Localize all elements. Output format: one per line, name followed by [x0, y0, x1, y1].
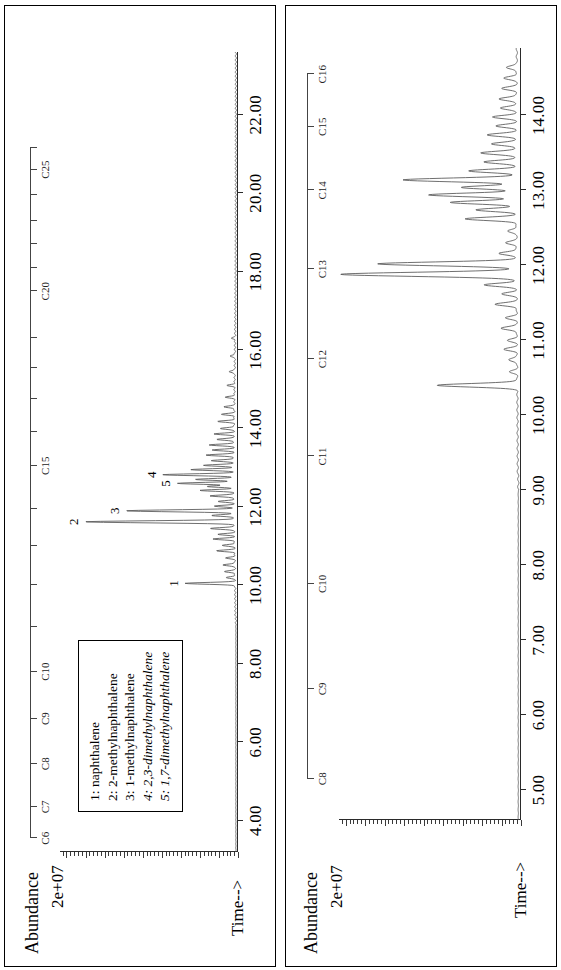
y-axis-tick [350, 820, 351, 824]
y-axis-tick [200, 852, 201, 858]
y-axis-tick [89, 852, 90, 856]
y-axis-tick [169, 852, 170, 856]
x-axis-tick [521, 114, 526, 115]
figure-root: 4.006.008.0010.0012.0014.0016.0018.0020.… [0, 0, 561, 970]
carbon-ruler-tick [30, 194, 37, 195]
y-axis-tick [342, 820, 343, 824]
x-axis-tick-label: 7.00 [529, 625, 549, 656]
carbon-ruler-label: C12 [316, 350, 328, 368]
y-axis-tick [381, 820, 382, 824]
panel-top: 4.006.008.0010.0012.0014.0016.0018.0020.… [0, 0, 280, 970]
y-axis-tick [227, 852, 228, 856]
y-axis-tick [357, 820, 358, 824]
x-axis-tick [238, 271, 243, 272]
peak-label: 1 [166, 580, 182, 587]
x-axis-tick [521, 489, 526, 490]
carbon-ruler-tick [30, 718, 37, 719]
x-axis-tick [238, 820, 243, 821]
carbon-ruler-tick [30, 584, 37, 585]
y-axis-tick [361, 820, 362, 824]
y-axis-tick [416, 820, 417, 824]
carbon-ruler-label: C13 [316, 260, 328, 278]
carbon-ruler-label: C9 [39, 712, 51, 725]
y-axis-tick [219, 852, 220, 858]
carbon-ruler-tick [307, 778, 314, 779]
panel-top-y-scale-label: 2e+07 [48, 865, 68, 908]
x-axis-tick [238, 114, 243, 115]
y-axis-tick [78, 852, 79, 856]
x-axis-tick-label: 11.00 [529, 321, 549, 360]
y-axis-tick [82, 852, 83, 856]
y-axis-tick [396, 820, 397, 824]
legend-entry-label: 2-methylnaphthalene [105, 673, 120, 790]
y-axis-tick [400, 820, 401, 824]
x-axis-tick [521, 639, 526, 640]
legend-entry: 1: naphthalene [86, 652, 104, 801]
legend-entry-index: 5: [157, 790, 172, 801]
x-axis-tick-label: 6.00 [529, 700, 549, 731]
x-axis-tick-label: 8.00 [529, 550, 549, 581]
y-axis-tick [365, 820, 366, 826]
y-axis-tick [188, 852, 189, 856]
y-axis-tick [517, 820, 518, 824]
carbon-ruler-tick [307, 126, 314, 127]
carbon-ruler-label: C25 [39, 160, 51, 178]
y-axis-tick [124, 852, 125, 858]
legend-entry-label: 1,7-dimethylnaphthalene [157, 652, 172, 790]
y-axis-tick [470, 820, 471, 824]
carbon-ruler-tick [30, 626, 37, 627]
y-axis-tick [346, 820, 347, 826]
carbon-ruler-tick [307, 688, 314, 689]
y-axis-tick [177, 852, 178, 856]
y-axis-tick [166, 852, 167, 856]
y-axis-tick [173, 852, 174, 856]
carbon-ruler-label: C15 [39, 457, 51, 475]
carbon-ruler-label: C8 [316, 772, 328, 785]
x-axis-tick [238, 663, 243, 664]
carbon-ruler-tick [30, 147, 37, 148]
y-axis-tick [208, 852, 209, 856]
y-axis-tick [353, 820, 354, 824]
y-axis-tick [385, 820, 386, 826]
carbon-ruler-tick [30, 465, 37, 466]
x-axis-tick [238, 584, 243, 585]
y-axis-tick [105, 852, 106, 858]
carbon-ruler-tick [30, 837, 37, 838]
y-axis-tick [369, 820, 370, 824]
x-axis-tick [238, 427, 243, 428]
y-axis-tick [431, 820, 432, 824]
x-axis-tick-label: 10.00 [246, 566, 266, 605]
carbon-ruler-tick [30, 398, 37, 399]
legend-entry: 2: 2-methylnaphthalene [104, 652, 122, 801]
carbon-ruler-label: C20 [39, 282, 51, 300]
y-axis-tick [211, 852, 212, 856]
carbon-ruler-label: C10 [39, 662, 51, 680]
carbon-ruler-tick [30, 508, 37, 509]
y-axis-tick [509, 820, 510, 824]
y-axis-tick [435, 820, 436, 824]
carbon-ruler-label: C16 [316, 65, 328, 83]
y-axis-tick [466, 820, 467, 824]
x-axis-tick [521, 789, 526, 790]
x-axis-tick-label: 10.00 [529, 396, 549, 435]
y-axis-tick [404, 820, 405, 826]
x-axis-tick-label: 20.00 [246, 174, 266, 213]
legend-entry-label: 2,3-dimethylnaphthalene [140, 652, 155, 790]
x-axis-tick [521, 414, 526, 415]
panel-bottom-carbon-ruler: C8C9C10C11C12C13C14C15C16 [307, 48, 329, 820]
x-axis-tick-label: 13.00 [529, 171, 549, 210]
y-axis-tick [377, 820, 378, 824]
y-axis-tick [154, 852, 155, 856]
y-axis-tick [93, 852, 94, 856]
y-axis-tick [494, 820, 495, 824]
x-axis-tick [521, 339, 526, 340]
carbon-ruler-tick [30, 545, 37, 546]
y-axis-tick [408, 820, 409, 824]
carbon-ruler-tick [307, 189, 314, 190]
y-axis-tick [230, 852, 231, 856]
y-axis-tick [234, 852, 235, 856]
x-axis-tick [521, 189, 526, 190]
y-axis-tick [108, 852, 109, 856]
y-axis-tick [127, 852, 128, 856]
carbon-ruler-tick [30, 220, 37, 221]
